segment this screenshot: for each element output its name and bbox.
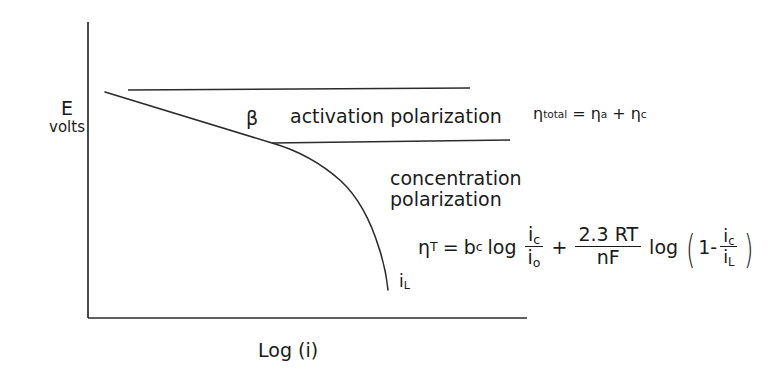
- tafel-fraction-rt-nf: 2.3 RT nF: [575, 225, 641, 268]
- tafel-fraction-ic-il: ic iL: [720, 227, 737, 267]
- eta-total-equals: =: [572, 105, 585, 123]
- plot-canvas: [0, 0, 771, 385]
- tafel-eta-symbol: η: [418, 237, 430, 258]
- tafel-b-symbol: b: [464, 237, 476, 258]
- concentration-polarization-line1: concentration: [390, 168, 522, 189]
- eta-total-eta: η: [533, 105, 543, 123]
- tafel-open-paren: (: [686, 239, 695, 260]
- tafel-equation-row: ηT = bc log ic io + 2.3 RT nF log ( 1- i…: [418, 226, 756, 269]
- tafel-fraction-ic-il-denominator: iL: [720, 247, 737, 266]
- x-axis-label: Log (i): [258, 340, 318, 361]
- tafel-fraction-rt-nf-denominator: nF: [594, 247, 623, 268]
- polarization-curve-figure: E volts Log (i) β activation polarizatio…: [0, 0, 771, 385]
- tafel-equals: =: [443, 237, 459, 258]
- tafel-fraction-ic-io-numerator: ic: [525, 225, 543, 247]
- tafel-fraction-ic-il-numerator: ic: [720, 227, 737, 247]
- tafel-log-first: log: [488, 237, 517, 258]
- eta-total-plus: +: [612, 105, 625, 123]
- tafel-plus: +: [552, 237, 568, 258]
- tafel-one-minus: 1-: [698, 237, 717, 258]
- beta-symbol-label: β: [246, 108, 258, 129]
- tafel-equation: ηT = bc log ic io + 2.3 RT nF log ( 1- i…: [418, 226, 756, 269]
- tafel-fraction-ic-io-denominator: io: [525, 247, 544, 268]
- limiting-current-label: iL: [399, 272, 410, 291]
- tafel-fraction-ic-io: ic io: [525, 225, 544, 268]
- tafel-close-paren: ): [743, 239, 752, 260]
- y-axis-label: E volts: [44, 98, 90, 136]
- eta-total-row: ηtotal = ηa + ηc: [533, 105, 647, 123]
- activation-lower-leader-line: [272, 140, 510, 143]
- y-axis-symbol: E: [44, 98, 90, 119]
- eta-total-equation: ηtotal = ηa + ηc: [533, 104, 647, 122]
- limiting-current-subscript: L: [404, 279, 410, 292]
- eta-a-symbol: η: [591, 105, 601, 123]
- activation-upper-leader-line: [128, 88, 470, 90]
- eta-c-symbol: η: [631, 105, 641, 123]
- activation-polarization-label: activation polarization: [290, 106, 502, 127]
- concentration-polarization-line2: polarization: [390, 189, 522, 210]
- y-axis-unit: volts: [44, 119, 90, 136]
- tafel-log-second: log: [649, 237, 678, 258]
- concentration-polarization-label: concentration polarization: [390, 168, 522, 211]
- tafel-fraction-rt-nf-numerator: 2.3 RT: [575, 225, 641, 247]
